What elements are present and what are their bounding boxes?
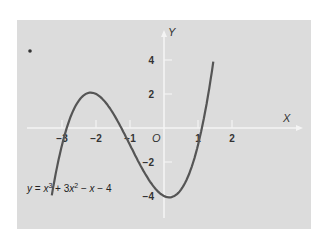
y-tick-label: 4 xyxy=(148,55,154,66)
y-axis-label: Y xyxy=(168,26,176,38)
y-tick-label: −2 xyxy=(143,157,155,168)
x-axis-label: X xyxy=(282,112,291,124)
chart: −3−2−11242−2−4 X Y O y = x3 + 3x2 − x − … xyxy=(0,0,328,241)
x-tick-label: −2 xyxy=(90,133,102,144)
origin-label: O xyxy=(152,132,161,144)
y-tick-label: −4 xyxy=(143,191,155,202)
y-tick-label: 2 xyxy=(148,89,154,100)
dot-mark xyxy=(28,49,32,53)
equation-label: y = x3 + 3x2 − x − 4 xyxy=(26,182,112,194)
cubic-curve xyxy=(52,62,214,198)
x-axis-arrow-icon xyxy=(296,125,303,131)
y-axis-arrow-icon xyxy=(161,30,167,37)
x-tick-label: 2 xyxy=(229,133,235,144)
